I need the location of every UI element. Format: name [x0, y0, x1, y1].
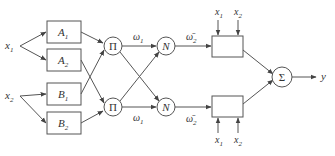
rule-bottom-input-x1: x1 — [214, 134, 223, 148]
svg-text:N: N — [161, 40, 170, 52]
svg-text:Π: Π — [109, 40, 117, 52]
edge-rule-bottom-sum — [243, 80, 273, 104]
edge-a1-pi-top — [81, 32, 103, 43]
edge-b2-pi-bottom — [81, 111, 103, 123]
node-pi-bottom: Π — [104, 98, 122, 116]
svg-text:N: N — [161, 101, 170, 113]
norm-weight-label-bottom: ω̄2 — [186, 113, 197, 127]
input-x2-label: x2 — [4, 89, 14, 104]
svg-text:Π: Π — [109, 101, 117, 113]
input-x1-label: x1 — [4, 39, 13, 54]
norm-weight-label-top: ω̄2 — [186, 31, 197, 45]
node-n-top: N — [157, 37, 175, 55]
rule-bottom-input-x2: x2 — [233, 134, 242, 148]
node-rule-top — [212, 36, 243, 57]
edge-b1-pi-top — [81, 50, 104, 94]
node-a2: A2 — [47, 49, 81, 71]
rule-top-input-x2: x2 — [233, 6, 242, 20]
edge-rule-top-sum — [243, 50, 273, 74]
rule-top-input-x1: x1 — [214, 6, 223, 20]
output-y-label: y — [320, 70, 326, 82]
node-n-bottom: N — [157, 98, 175, 116]
weight-label-bottom: ω1 — [133, 112, 144, 126]
node-b1: B1 — [47, 83, 81, 105]
svg-text:Σ: Σ — [279, 71, 285, 83]
node-b2: B2 — [47, 112, 81, 134]
node-sum: Σ — [272, 67, 292, 87]
node-rule-bottom — [212, 96, 243, 117]
edge-x2-b1 — [20, 94, 46, 96]
anfis-diagram: x1 x2 A1 A2 B1 B2 Π Π ω1 ω1 — [0, 0, 335, 156]
edge-x2-b2 — [20, 96, 46, 123]
node-pi-top: Π — [104, 37, 122, 55]
edge-a2-pi-bottom — [81, 60, 104, 103]
edge-x1-a2 — [20, 46, 46, 60]
edge-x1-a1 — [20, 32, 46, 46]
weight-label-top: ω1 — [133, 31, 144, 45]
node-a1: A1 — [47, 21, 81, 43]
